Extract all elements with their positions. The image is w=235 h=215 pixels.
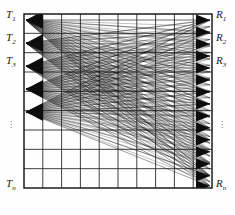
label-rn: Rn: [216, 178, 226, 192]
label-t1: T1: [6, 9, 16, 23]
figure-container: T1 T2 T3 Tn R1 R2 R3 Rn ... ...: [0, 0, 235, 215]
label-tn: Tn: [6, 178, 16, 192]
ellipsis-left: ...: [6, 118, 16, 127]
label-t2: T2: [6, 32, 16, 46]
label-r3: R3: [216, 55, 226, 69]
ellipsis-right: ...: [217, 118, 227, 127]
label-r2: R2: [216, 32, 226, 46]
label-t3: T3: [6, 55, 16, 69]
routing-diagram-svg: [0, 0, 235, 215]
label-r1: R1: [216, 9, 226, 23]
